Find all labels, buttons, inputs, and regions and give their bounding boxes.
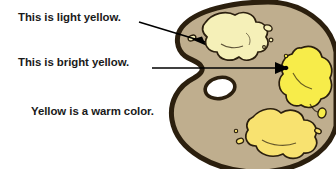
illustration-canvas: This is light yellow. This is bright yel… — [0, 0, 336, 169]
palette-illustration — [0, 0, 336, 169]
label-warm-color: Yellow is a warm color. — [31, 106, 154, 117]
label-light-yellow: This is light yellow. — [18, 12, 121, 23]
label-bright-yellow: This is bright yellow. — [18, 57, 129, 68]
